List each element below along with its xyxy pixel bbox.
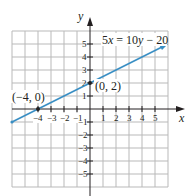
y-tick-label: −3 bbox=[78, 143, 88, 153]
x-tick-label: −4 bbox=[33, 113, 43, 123]
x-tick-label: 1 bbox=[101, 113, 106, 123]
coordinate-plane: y x −4 −3 −2 −1 1 2 3 4 5 5 4 3 2 1 −1 −… bbox=[0, 0, 195, 196]
x-tick-label: 5 bbox=[153, 113, 158, 123]
x-axis-label: x bbox=[178, 111, 185, 125]
y-tick-label: 1 bbox=[82, 91, 87, 101]
y-tick-label: −4 bbox=[78, 156, 88, 166]
y-tick-label: 3 bbox=[82, 65, 87, 75]
point-label-0-2: (0, 2) bbox=[95, 79, 121, 93]
x-tick-label: 4 bbox=[140, 113, 145, 123]
x-tick-label: −3 bbox=[47, 113, 57, 123]
x-tick-label: −2 bbox=[60, 113, 70, 123]
y-axis-arrow-icon bbox=[87, 17, 93, 26]
graph-line bbox=[12, 47, 163, 123]
y-tick-label: −2 bbox=[78, 130, 88, 140]
y-tick-label: 4 bbox=[82, 52, 87, 62]
equation-label: 5x = 10y − 20 bbox=[102, 33, 168, 47]
y-axis-label: y bbox=[77, 9, 84, 23]
y-tick-label: 5 bbox=[82, 39, 87, 49]
point-label-neg4-0: (−4, 0) bbox=[12, 90, 45, 104]
point-neg4-0 bbox=[36, 107, 40, 111]
line-start-dot bbox=[10, 120, 13, 123]
x-tick-label: 2 bbox=[114, 113, 119, 123]
point-0-2 bbox=[88, 81, 92, 85]
x-tick-label: 3 bbox=[127, 113, 132, 123]
y-tick-label: −5 bbox=[78, 169, 88, 179]
y-tick-label: −1 bbox=[78, 117, 88, 127]
